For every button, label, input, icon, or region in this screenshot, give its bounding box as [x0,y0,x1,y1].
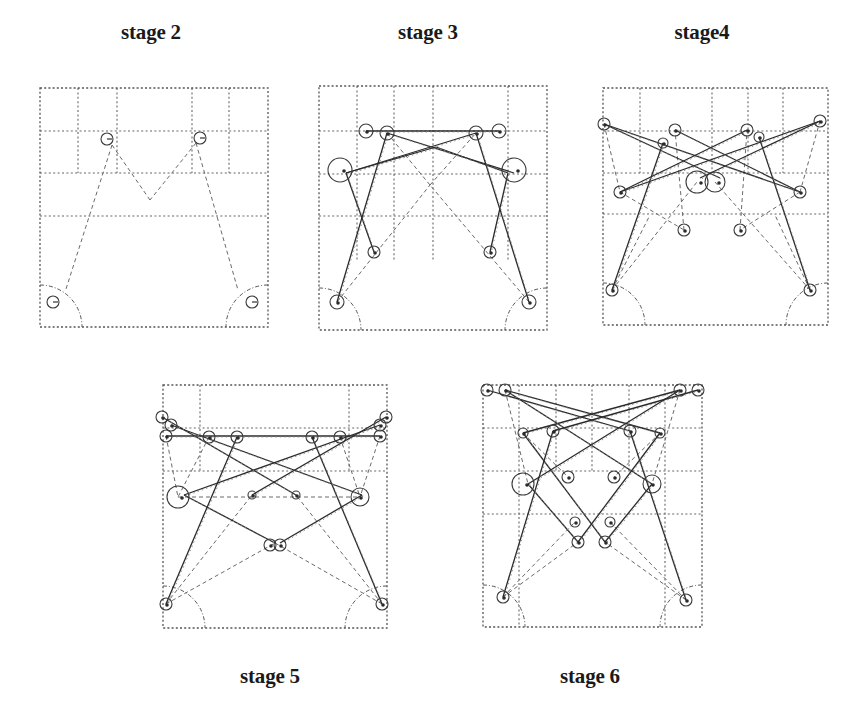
dashed-link [675,130,684,230]
node-center-dot [365,130,369,134]
node-center-dot [567,476,571,480]
node-center-dot [379,424,383,428]
node-center-dot [311,436,315,440]
node-center-dot [758,136,762,140]
node-center-dot [504,389,508,393]
node-center-dot [679,389,683,393]
node-center-dot [809,289,813,293]
node-center-dot [799,191,803,195]
node-center-dot [577,541,581,545]
solid-link [166,437,237,604]
stage-3-title: stage 3 [398,20,458,45]
dashed-link [505,390,528,484]
solid-link-shadow [477,134,530,303]
node-center-dot [674,129,678,133]
range-arc [40,285,82,327]
solid-link-shadow [504,432,554,598]
solid-link [436,147,508,173]
node-center-dot [269,544,273,548]
node-center-dot [629,430,633,434]
node-center-dot [659,432,663,436]
node-center-dot [381,603,385,607]
node-center-dot [525,483,529,487]
node-center-dot [717,181,721,185]
panel-stage-4 [598,88,828,325]
solid-link-shadow [253,418,387,496]
solid-link [312,437,382,604]
node-circle-icon [328,158,352,182]
node-center-dot [516,169,520,173]
solid-link [162,417,296,495]
node-center-dot [251,494,255,498]
node-center-dot [604,541,608,545]
node-center-dot [336,301,340,305]
node-center-dot [385,416,389,420]
dashed-link [610,522,686,600]
dashed-link [360,436,380,497]
range-arc [786,283,828,325]
panel-stage-3 [319,86,547,330]
node-center-dot [697,389,701,393]
node-center-dot [489,251,493,255]
solid-link [553,390,698,431]
solid-link-shadow [281,496,363,544]
node-center-dot [208,436,212,440]
stage-2-title: stage 2 [121,20,181,45]
solid-link-shadow [631,432,687,601]
dashed-link [605,542,686,600]
dashed-link [604,124,620,192]
dashed-link [614,433,660,477]
solid-link [476,133,529,302]
panel-frame [163,385,387,628]
node-center-dot [359,496,363,500]
node-center-dot [528,301,532,305]
node-center-dot [739,229,743,233]
node-center-dot [236,436,240,440]
panel-stage-5 [156,385,392,628]
dashed-link [612,215,650,290]
node-center-dot [685,599,689,603]
stage-4-title: stage4 [675,20,730,45]
solid-link-shadow [613,144,664,291]
solid-link-shadow [760,138,811,291]
node-center-dot [165,435,169,439]
solid-link [387,133,514,173]
dashed-link [166,543,275,604]
stage-6-title: stage 6 [560,664,620,689]
node-center-dot [611,289,615,293]
node-center-dot [386,132,390,136]
range-arc [345,586,387,628]
node-center-dot [379,435,383,439]
solid-link [612,143,663,290]
dashed-link [66,145,112,289]
panel-frame [603,88,828,325]
node-center-dot [475,132,479,136]
solid-link-shadow [347,148,437,174]
dashed-link [715,182,810,290]
panel-frame [40,88,268,327]
solid-link [700,121,820,178]
solid-link [252,417,386,495]
node-center-dot [651,483,655,487]
stage-5-title: stage 5 [240,664,300,689]
dashed-link [503,542,578,597]
node-center-dot [165,603,169,607]
node-center-dot [609,521,613,525]
dashed-link [112,145,150,200]
dashed-link [775,215,810,290]
node-center-dot [522,432,526,436]
node-center-dot [339,436,343,440]
solid-link [505,390,660,433]
dashed-link [800,121,820,192]
solid-link-shadow [167,438,238,605]
node-center-dot [295,494,299,498]
node-center-dot [373,251,377,255]
node-center-dot [170,424,174,428]
dashed-link [430,185,529,302]
node-center-dot [603,123,607,127]
dashed-link [296,495,382,604]
range-arc [163,586,205,628]
solid-link-shadow [163,418,297,496]
dashed-link [740,192,800,230]
dashed-link [166,495,252,604]
